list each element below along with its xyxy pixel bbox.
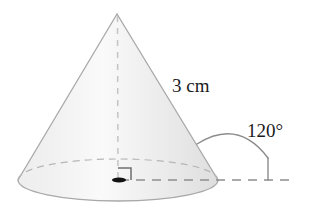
- geometry-figure: 3 cm 120°: [0, 0, 312, 222]
- slant-height-label: 3 cm: [172, 75, 210, 96]
- angle-label: 120°: [247, 120, 283, 141]
- cone-diagram-canvas: 3 cm 120°: [0, 0, 312, 222]
- base-center-point: [112, 178, 126, 183]
